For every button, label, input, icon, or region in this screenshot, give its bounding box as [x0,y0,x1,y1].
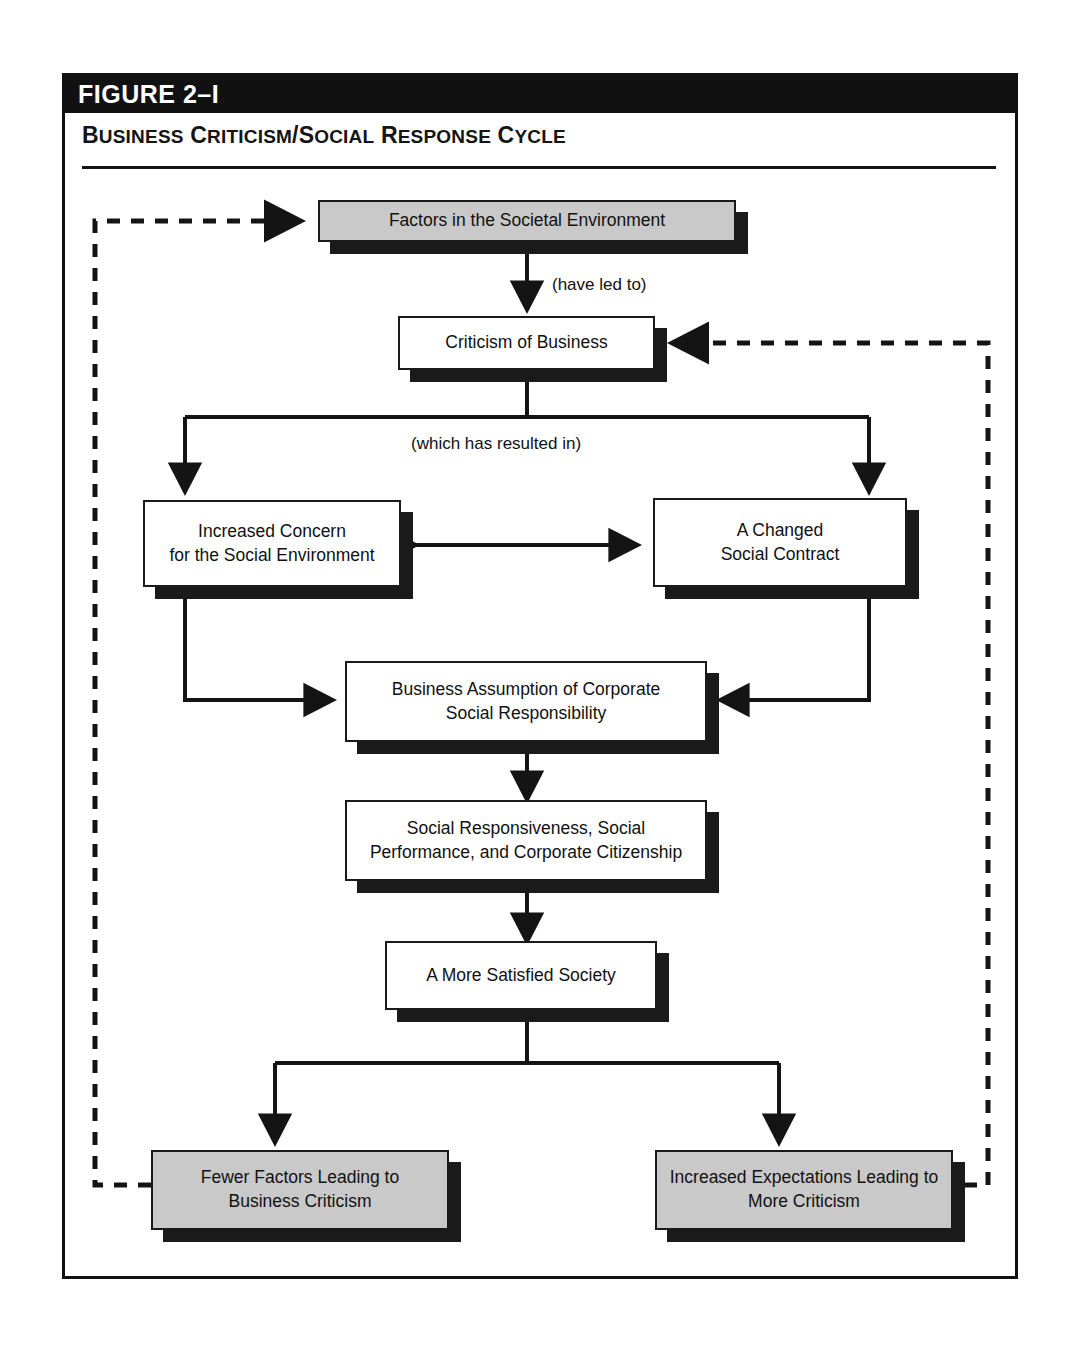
node-label: Criticism of Business [445,331,607,355]
node-label: A More Satisfied Society [426,964,616,988]
node-fewer-factors-leading-to-business-criticism[interactable]: Fewer Factors Leading to Business Critic… [151,1150,449,1230]
figure-number-label: FIGURE 2–I [78,80,219,109]
node-label-line-2: More Criticism [748,1190,860,1214]
node-label-line-1: Fewer Factors Leading to [201,1166,399,1190]
node-label-line-2: Social Contract [721,543,840,567]
edge-label-which-has-resulted-in: (which has resulted in) [411,434,581,454]
node-label-line-2: Business Criticism [229,1190,372,1214]
node-increased-expectations-leading-to-more-criticism[interactable]: Increased Expectations Leading to More C… [655,1150,953,1230]
node-label: Factors in the Societal Environment [389,209,665,233]
node-label-line-1: Social Responsiveness, Social [407,817,645,841]
edge-label-have-led-to: (have led to) [552,275,647,295]
node-social-responsiveness[interactable]: Social Responsiveness, Social Performanc… [345,800,707,881]
node-factors-in-societal-environment[interactable]: Factors in the Societal Environment [318,200,736,242]
node-label-line-2: Performance, and Corporate Citizenship [370,841,682,865]
node-more-satisfied-society[interactable]: A More Satisfied Society [385,941,657,1010]
node-criticism-of-business[interactable]: Criticism of Business [398,316,655,370]
node-business-assumption-of-csr[interactable]: Business Assumption of Corporate Social … [345,661,707,742]
node-label-line-2: Social Responsibility [446,702,607,726]
figure-title-text: BUSINESS CRITICISM/SOCIAL RESPONSE CYCLE [82,122,566,148]
node-label-line-1: A Changed [737,519,824,543]
node-changed-social-contract[interactable]: A Changed Social Contract [653,498,907,587]
node-increased-concern[interactable]: Increased Concern for the Social Environ… [143,500,401,587]
figure-title: BUSINESS CRITICISM/SOCIAL RESPONSE CYCLE [82,122,566,149]
node-label-line-1: Business Assumption of Corporate [392,678,660,702]
figure-header-bar: FIGURE 2–I [62,73,1018,113]
node-label-line-1: Increased Concern [198,520,346,544]
title-divider-rule [82,166,996,169]
node-label-line-2: for the Social Environment [169,544,374,568]
node-label-line-1: Increased Expectations Leading to [670,1166,939,1190]
